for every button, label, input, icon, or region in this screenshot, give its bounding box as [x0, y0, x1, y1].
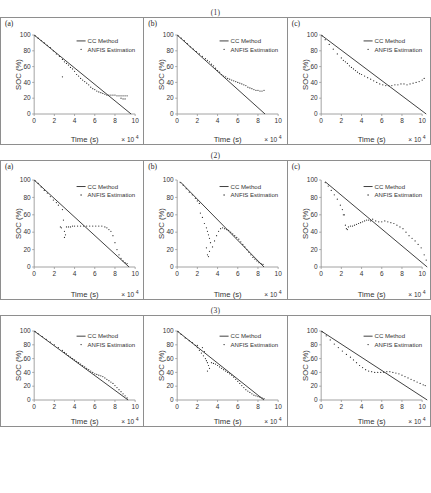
svg-text:60: 60 [23, 355, 31, 362]
svg-text:20: 20 [23, 382, 31, 389]
svg-text:100: 100 [163, 31, 174, 38]
svg-text:20: 20 [167, 94, 175, 101]
svg-text:SOC (%): SOC (%) [157, 350, 166, 381]
svg-text:100: 100 [306, 31, 317, 38]
svg-text:ANFIS Estimation: ANFIS Estimation [88, 47, 136, 53]
svg-text:× 10: × 10 [408, 136, 421, 143]
svg-text:0: 0 [314, 110, 318, 117]
svg-text:40: 40 [310, 369, 318, 376]
svg-text:80: 80 [23, 194, 31, 201]
svg-text:100: 100 [20, 176, 31, 183]
plot-r2c2: 0204060801000246810Time (s)SOC (%)× 104C… [144, 161, 286, 299]
svg-text:80: 80 [167, 341, 175, 348]
svg-text:8: 8 [400, 403, 404, 410]
svg-text:× 10: × 10 [408, 291, 421, 298]
svg-text:80: 80 [310, 194, 318, 201]
svg-text:100: 100 [306, 327, 317, 334]
svg-text:CC Method: CC Method [231, 333, 262, 339]
svg-text:× 10: × 10 [121, 291, 134, 298]
svg-text:0: 0 [32, 270, 36, 277]
svg-text:10: 10 [418, 270, 426, 277]
svg-text:6: 6 [380, 270, 384, 277]
svg-text:0: 0 [27, 396, 31, 403]
svg-text:6: 6 [93, 270, 97, 277]
svg-text:2: 2 [53, 270, 57, 277]
svg-text:2: 2 [196, 270, 200, 277]
svg-text:100: 100 [20, 327, 31, 334]
svg-text:20: 20 [310, 94, 318, 101]
svg-text:CC Method: CC Method [374, 38, 405, 44]
svg-text:× 10: × 10 [265, 291, 278, 298]
panel-3c: 0204060801000246810Time (s)SOC (%)× 104C… [288, 316, 430, 426]
svg-text:20: 20 [310, 246, 318, 253]
svg-text:20: 20 [310, 382, 318, 389]
svg-text:4: 4 [279, 134, 282, 140]
figure-sheet: (1) (a) 0204060801000246810Time (s)SOC (… [0, 0, 431, 493]
plot-r1c2: 0204060801000246810Time (s)SOC (%)× 104C… [144, 18, 286, 144]
svg-text:4: 4 [422, 289, 425, 295]
svg-text:2: 2 [339, 270, 343, 277]
svg-text:0: 0 [176, 403, 180, 410]
panel-1b: (b) 0204060801000246810Time (s)SOC (%)× … [144, 18, 287, 144]
svg-text:CC Method: CC Method [374, 333, 405, 339]
svg-text:60: 60 [23, 211, 31, 218]
svg-text:8: 8 [113, 117, 117, 124]
plot-r3c3: 0204060801000246810Time (s)SOC (%)× 104C… [288, 316, 430, 426]
svg-text:0: 0 [319, 270, 323, 277]
svg-text:0: 0 [170, 110, 174, 117]
svg-text:2: 2 [196, 403, 200, 410]
svg-text:80: 80 [167, 47, 175, 54]
figure-row-2: (a) 0204060801000246810Time (s)SOC (%)× … [0, 160, 431, 300]
svg-text:ANFIS Estimation: ANFIS Estimation [88, 192, 136, 198]
panel-1c: (c) 0204060801000246810Time (s)SOC (%)× … [288, 18, 430, 144]
svg-text:ANFIS Estimation: ANFIS Estimation [231, 192, 279, 198]
svg-text:60: 60 [310, 355, 318, 362]
svg-text:8: 8 [113, 403, 117, 410]
svg-text:4: 4 [359, 403, 363, 410]
svg-text:100: 100 [163, 176, 174, 183]
svg-text:60: 60 [167, 63, 175, 70]
svg-text:8: 8 [400, 117, 404, 124]
svg-text:10: 10 [132, 403, 140, 410]
svg-text:20: 20 [23, 94, 31, 101]
svg-text:SOC (%): SOC (%) [300, 59, 309, 90]
svg-text:8: 8 [256, 270, 260, 277]
svg-text:0: 0 [32, 403, 36, 410]
svg-text:10: 10 [275, 403, 283, 410]
svg-text:ANFIS Estimation: ANFIS Estimation [374, 342, 422, 348]
svg-text:× 10: × 10 [121, 136, 134, 143]
svg-text:× 10: × 10 [265, 136, 278, 143]
panel-2b: (b) 0204060801000246810Time (s)SOC (%)× … [144, 161, 287, 299]
svg-text:6: 6 [236, 117, 240, 124]
plot-r3c2: 0204060801000246810Time (s)SOC (%)× 104C… [144, 316, 286, 426]
svg-text:20: 20 [23, 246, 31, 253]
panel-3a: 0204060801000246810Time (s)SOC (%)× 104C… [1, 316, 144, 426]
svg-text:8: 8 [256, 117, 260, 124]
svg-text:80: 80 [23, 341, 31, 348]
svg-text:40: 40 [310, 228, 318, 235]
svg-text:60: 60 [310, 211, 318, 218]
svg-text:40: 40 [23, 228, 31, 235]
svg-text:10: 10 [132, 117, 140, 124]
svg-text:0: 0 [314, 396, 318, 403]
svg-text:SOC (%): SOC (%) [157, 59, 166, 90]
plot-r3c1: 0204060801000246810Time (s)SOC (%)× 104C… [1, 316, 143, 426]
svg-text:4: 4 [279, 416, 282, 422]
svg-text:4: 4 [136, 134, 139, 140]
svg-text:4: 4 [73, 270, 77, 277]
svg-text:40: 40 [23, 79, 31, 86]
panel-2a: (a) 0204060801000246810Time (s)SOC (%)× … [1, 161, 144, 299]
svg-text:4: 4 [359, 270, 363, 277]
svg-text:Time (s): Time (s) [357, 290, 385, 299]
svg-text:80: 80 [310, 47, 318, 54]
svg-text:0: 0 [170, 396, 174, 403]
figure-row-1: (a) 0204060801000246810Time (s)SOC (%)× … [0, 17, 431, 145]
svg-text:CC Method: CC Method [88, 184, 119, 190]
plot-r1c1: 0204060801000246810Time (s)SOC (%)× 104C… [1, 18, 143, 144]
svg-text:60: 60 [23, 63, 31, 70]
svg-text:ANFIS Estimation: ANFIS Estimation [88, 342, 136, 348]
svg-text:CC Method: CC Method [231, 38, 262, 44]
svg-text:4: 4 [422, 134, 425, 140]
svg-text:CC Method: CC Method [374, 184, 405, 190]
svg-text:0: 0 [314, 263, 318, 270]
